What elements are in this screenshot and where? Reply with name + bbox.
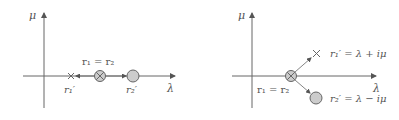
right-diagram: μ λ r₁ = r₂ r₁′ = λ + iμ r₂′ = λ − iμ bbox=[232, 9, 387, 108]
left-y-axis-label: μ bbox=[29, 9, 36, 22]
left-x-axis-label: λ bbox=[166, 82, 174, 95]
right-root2-circle-icon bbox=[310, 92, 322, 104]
left-diagram: μ λ r₁ = r₂ r₁′ r₂′ bbox=[23, 9, 175, 108]
right-y-axis-label: μ bbox=[238, 9, 245, 22]
left-double-root-label: r₁ = r₂ bbox=[82, 56, 114, 67]
right-root1-label: r₁′ = λ + iμ bbox=[330, 48, 387, 59]
root-diagrams: μ λ r₁ = r₂ r₁′ r₂′ μ λ bbox=[0, 0, 399, 120]
right-double-root-circled-x-icon bbox=[286, 71, 297, 82]
right-arrow-to-root1 bbox=[295, 58, 311, 72]
right-root2-label: r₂′ = λ − iμ bbox=[330, 93, 387, 104]
right-arrow-to-root2 bbox=[295, 80, 310, 93]
left-root2-label: r₂′ bbox=[126, 84, 138, 95]
right-root1-cross-icon bbox=[313, 50, 320, 57]
left-double-root-circled-x-icon bbox=[95, 71, 106, 82]
right-double-root-label: r₁ = r₂ bbox=[257, 84, 289, 95]
left-root2-circle-icon bbox=[127, 70, 139, 82]
left-root1-label: r₁′ bbox=[64, 84, 76, 95]
